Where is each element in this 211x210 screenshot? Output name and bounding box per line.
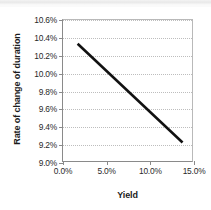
x-axis-tick	[63, 161, 64, 165]
y-axis-tick-label: 9.4%	[39, 122, 57, 132]
x-axis-tick-label: 15.0%	[183, 166, 206, 176]
x-axis-tick	[107, 161, 108, 165]
y-axis-tick-label: 9.8%	[39, 87, 57, 97]
y-axis-tick	[59, 74, 63, 75]
y-axis-tick	[59, 127, 63, 128]
y-axis-tick-label: 10.0%	[34, 69, 57, 79]
x-axis-tick-label: 10.0%	[139, 166, 162, 176]
y-axis-tick	[59, 109, 63, 110]
y-axis-tick-label: 10.2%	[34, 51, 57, 61]
x-axis-title: Yield	[62, 190, 193, 200]
y-axis-tick-label: 10.4%	[34, 33, 57, 43]
y-axis-tick	[59, 92, 63, 93]
plot-area: 9.0%9.2%9.4%9.6%9.8%10.0%10.2%10.4%10.6%…	[62, 19, 193, 162]
chart-figure: Rate of change of duration 9.0%9.2%9.4%9…	[0, 0, 211, 210]
series-line-chart	[63, 20, 192, 161]
y-axis-tick	[59, 145, 63, 146]
y-axis-tick-label: 9.2%	[39, 140, 57, 150]
y-axis-tick-label: 9.6%	[39, 104, 57, 114]
y-axis-tick	[59, 20, 63, 21]
x-axis-tick-label: 0.0%	[54, 166, 72, 176]
x-axis-tick	[150, 161, 151, 165]
x-axis-tick-label: 5.0%	[98, 166, 116, 176]
scan-artifact-band-secondary	[0, 5, 211, 7]
series-line	[78, 44, 183, 143]
y-axis-tick	[59, 38, 63, 39]
y-axis-tick	[59, 56, 63, 57]
y-axis-title: Rate of change of duration	[12, 14, 22, 164]
x-axis-tick	[194, 161, 195, 165]
y-axis-tick-label: 10.6%	[34, 15, 57, 25]
